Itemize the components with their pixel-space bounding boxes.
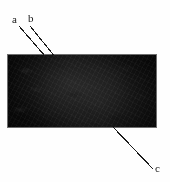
leader-line-c (113, 127, 153, 169)
annotation-label-b: b (28, 13, 34, 24)
leader-line-a (19, 26, 45, 56)
figure-container: a b c (0, 0, 170, 182)
annotation-label-a: a (12, 14, 17, 25)
specimen-vignette-layer (8, 55, 156, 127)
specimen-image-panel (7, 54, 157, 128)
annotation-label-c: c (155, 163, 160, 174)
